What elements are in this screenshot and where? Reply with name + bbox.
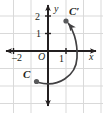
tick-label-x-1: 1 [59,54,64,64]
point-label-c-prime: C′ [69,6,79,17]
y-axis-label: y [54,4,58,14]
coordinate-plane-figure: 2 1 –2 1 O x y C C′ [0,0,103,113]
tick-label-y-2: 2 [35,12,40,22]
point-c-prime [63,18,68,23]
tick-label-x-minus-2: –2 [12,53,22,63]
origin-label: O [38,52,45,62]
point-c [34,79,39,84]
x-axis-label: x [89,52,93,62]
point-label-c: C [23,69,30,80]
tick-label-y-1: 1 [36,29,41,39]
